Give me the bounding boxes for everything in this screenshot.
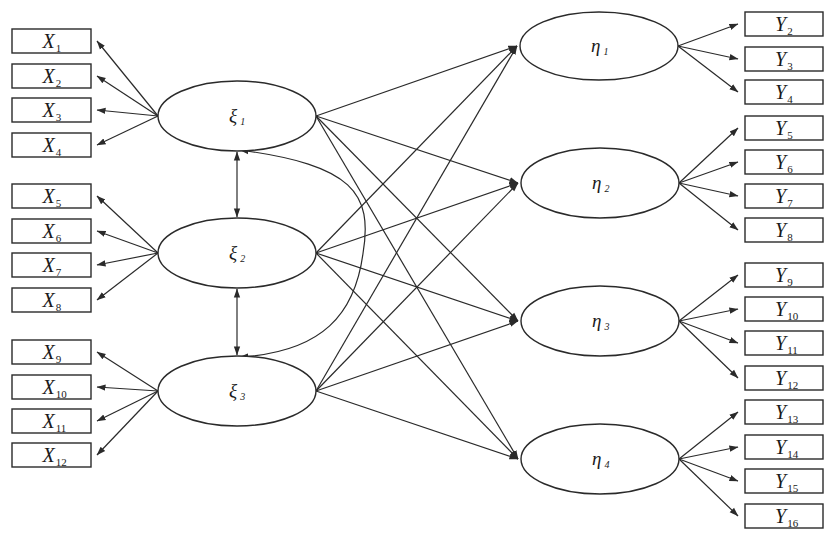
loading-arrow	[679, 162, 738, 183]
latent-xi1: ξ1	[158, 81, 316, 151]
indicator-x9: X9	[12, 340, 91, 365]
indicator-y3: Y3	[745, 47, 823, 72]
indicator-y7: Y7	[745, 184, 823, 209]
loading-arrow	[97, 352, 158, 391]
latent-eta2: η2	[521, 148, 679, 218]
latent-eta4: η4	[521, 424, 679, 494]
loading-arrow	[97, 387, 158, 391]
sem-path-diagram: ξ1ξ2ξ3η1η2η3η4X1X2X3X4X5X6X7X8X9X10X11X1…	[0, 0, 835, 542]
indicator-x4: X4	[12, 133, 91, 158]
loading-arrow	[97, 110, 158, 116]
loading-arrow	[678, 24, 738, 46]
loading-arrow	[97, 41, 158, 116]
loading-arrow	[679, 321, 738, 343]
indicator-y10: Y10	[745, 297, 823, 322]
indicator-y14: Y14	[745, 435, 823, 460]
latent-xi2: ξ2	[158, 218, 316, 288]
indicator-x5: X5	[12, 184, 91, 209]
indicator-y11: Y11	[745, 331, 823, 356]
indicator-y16: Y16	[745, 504, 823, 529]
indicator-x12: X12	[12, 443, 91, 468]
loading-arrow	[679, 275, 738, 321]
indicator-x3: X3	[12, 98, 91, 123]
indicator-x10: X10	[12, 375, 91, 400]
loading-arrow	[679, 309, 738, 321]
loading-arrow	[97, 253, 158, 265]
structural-path-arrow	[316, 391, 518, 459]
latent-eta1: η1	[520, 12, 678, 80]
latent-xi3: ξ3	[158, 356, 316, 426]
loading-arrow	[97, 196, 158, 253]
structural-path-arrow	[316, 183, 518, 391]
loading-arrow	[97, 76, 158, 116]
loading-arrow	[97, 231, 158, 253]
indicator-y13: Y13	[745, 400, 823, 425]
loading-arrow	[679, 459, 738, 481]
indicator-y12: Y12	[745, 366, 823, 391]
loading-arrow	[97, 253, 158, 300]
nodes-layer: ξ1ξ2ξ3η1η2η3η4X1X2X3X4X5X6X7X8X9X10X11X1…	[12, 12, 823, 529]
loading-arrow	[679, 459, 738, 516]
indicator-x11: X11	[12, 409, 91, 434]
structural-path-arrow	[316, 321, 518, 391]
indicator-x8: X8	[12, 288, 91, 313]
indicator-y9: Y9	[745, 263, 823, 288]
indicator-y15: Y15	[745, 469, 823, 494]
loading-arrow	[679, 447, 738, 459]
loading-arrow	[679, 128, 738, 183]
loading-arrow	[97, 391, 158, 421]
indicator-y5: Y5	[745, 116, 823, 141]
indicator-x2: X2	[12, 64, 91, 89]
indicator-x1: X1	[12, 29, 91, 54]
indicator-x7: X7	[12, 253, 91, 278]
indicator-y8: Y8	[745, 218, 823, 243]
latent-eta3: η3	[521, 286, 679, 356]
structural-path-arrow	[316, 46, 517, 391]
indicator-y4: Y4	[745, 80, 823, 105]
structural-path-arrow	[316, 46, 517, 253]
loading-arrow	[97, 391, 158, 455]
loading-arrow	[679, 412, 738, 459]
indicator-y2: Y2	[745, 12, 823, 37]
loading-arrow	[679, 321, 738, 378]
structural-path-arrow	[316, 46, 517, 116]
indicator-x6: X6	[12, 219, 91, 244]
loading-arrow	[97, 116, 158, 145]
indicator-y6: Y6	[745, 150, 823, 175]
